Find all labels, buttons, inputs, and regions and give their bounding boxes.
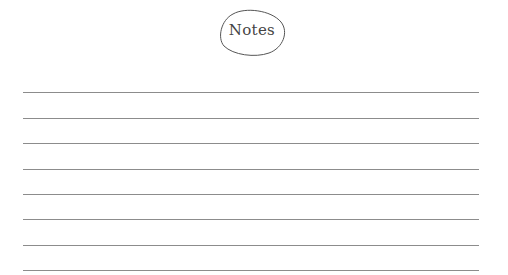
ruled-line — [23, 270, 479, 271]
ruled-line — [23, 245, 479, 246]
ruled-line — [23, 143, 479, 144]
ruled-line — [23, 169, 479, 170]
ruled-line — [23, 118, 479, 119]
ruled-lines — [23, 0, 479, 275]
ruled-line — [23, 219, 479, 220]
ruled-line — [23, 92, 479, 93]
ruled-line — [23, 194, 479, 195]
